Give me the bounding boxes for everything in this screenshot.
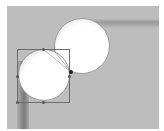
selection-bounding-box[interactable]	[17, 49, 70, 103]
handle-left-middle[interactable]	[16, 75, 19, 78]
design-canvas[interactable]	[7, 6, 159, 129]
handle-top-middle[interactable]	[42, 48, 45, 51]
handle-right-middle[interactable]	[68, 75, 71, 78]
handle-bottom-middle[interactable]	[42, 101, 45, 104]
anchor-point[interactable]	[69, 70, 73, 74]
handle-bottom-left[interactable]	[16, 101, 19, 104]
